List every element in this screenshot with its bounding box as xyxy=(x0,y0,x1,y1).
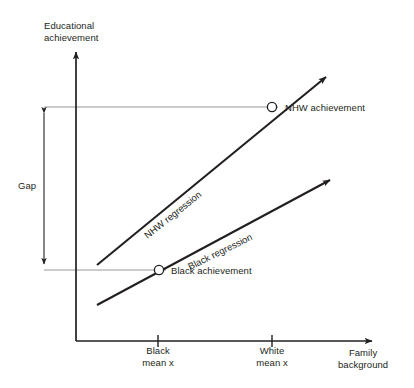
black-achievement-point xyxy=(154,265,163,274)
achievement-gap-diagram xyxy=(0,0,414,388)
y-axis-title: Educationalachievement xyxy=(44,20,98,43)
nhw-achievement-point xyxy=(267,102,276,111)
nhw-achievement-label: NHW achievement xyxy=(285,102,365,114)
gap-label: Gap xyxy=(18,180,36,192)
x-axis-title: Familybackground xyxy=(338,347,388,370)
x-tick-label-white-mean: Whitemean x xyxy=(242,345,302,368)
black-achievement-label: Black achievement xyxy=(171,265,252,277)
x-tick-label-black-mean: Blackmean x xyxy=(128,345,188,368)
diagram-background xyxy=(0,0,414,388)
